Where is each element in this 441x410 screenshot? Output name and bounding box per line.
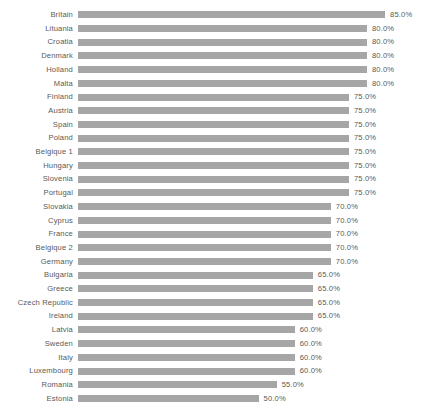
value-label: 55.0% [282,378,304,392]
bar-track [78,296,313,310]
bar-row: Spain75.0% [0,118,441,132]
bar [78,313,313,320]
bar-row: Czech Republic65.0% [0,296,441,310]
bar-chart: Britain85.0%Lituania80.0%Croatia80.0%Den… [0,0,441,410]
bar [78,121,349,128]
bar [78,381,277,388]
bar-row: Holland80.0% [0,63,441,77]
bar-row: Italy60.0% [0,351,441,365]
category-label: Austria [0,104,73,118]
category-label: Hungary [0,159,73,173]
bar [78,217,331,224]
bar-track [78,214,331,228]
value-label: 75.0% [354,131,376,145]
bar [78,272,313,279]
value-label: 60.0% [300,351,322,365]
bar-row: Croatia80.0% [0,35,441,49]
category-label: France [0,227,73,241]
bar-track [78,35,367,49]
bar-track [78,131,349,145]
category-label: Estonia [0,392,73,406]
bar [78,25,367,32]
bar [78,148,349,155]
category-label: Denmark [0,49,73,63]
bar-row: Belgique 270.0% [0,241,441,255]
bar-row: Malta80.0% [0,77,441,91]
category-label: Slovakia [0,200,73,214]
category-label: Romania [0,378,73,392]
bar-row: Slovenia75.0% [0,172,441,186]
value-label: 65.0% [318,309,340,323]
bar-row: Belgique 175.0% [0,145,441,159]
bar-track [78,145,349,159]
bar [78,244,331,251]
bar-row: Austria75.0% [0,104,441,118]
bar [78,189,349,196]
category-label: Sweden [0,337,73,351]
bar [78,326,295,333]
bar [78,80,367,87]
bar-row: Luxembourg60.0% [0,364,441,378]
category-label: Italy [0,351,73,365]
category-label: Malta [0,77,73,91]
value-label: 80.0% [372,35,394,49]
bar [78,66,367,73]
bar-row: Denmark80.0% [0,49,441,63]
bar [78,299,313,306]
value-label: 75.0% [354,145,376,159]
category-label: Belgique 1 [0,145,73,159]
category-label: Ireland [0,309,73,323]
bar [78,285,313,292]
bar-row: Latvia60.0% [0,323,441,337]
bar-track [78,378,277,392]
bar [78,340,295,347]
category-label: Bulgaria [0,268,73,282]
category-label: Holland [0,63,73,77]
bar-track [78,282,313,296]
bar-row: Ireland65.0% [0,309,441,323]
bar [78,11,385,18]
bar-row: Finland75.0% [0,90,441,104]
bar-track [78,392,259,406]
bar-track [78,22,367,36]
value-label: 70.0% [336,241,358,255]
value-label: 75.0% [354,90,376,104]
value-label: 75.0% [354,104,376,118]
bar [78,52,367,59]
bar-track [78,172,349,186]
category-label: Spain [0,118,73,132]
category-label: Finland [0,90,73,104]
bar-row: Bulgaria65.0% [0,268,441,282]
value-label: 70.0% [336,200,358,214]
value-label: 80.0% [372,22,394,36]
bar-track [78,268,313,282]
bar-track [78,323,295,337]
bar-track [78,49,367,63]
value-label: 80.0% [372,77,394,91]
bar-row: Germany70.0% [0,255,441,269]
bar [78,231,331,238]
value-label: 60.0% [300,323,322,337]
value-label: 70.0% [336,227,358,241]
value-label: 65.0% [318,282,340,296]
bar-track [78,8,385,22]
value-label: 65.0% [318,268,340,282]
category-label: Lituania [0,22,73,36]
bar-row: Cyprus70.0% [0,214,441,228]
value-label: 75.0% [354,186,376,200]
bar-track [78,255,331,269]
category-label: Greece [0,282,73,296]
bar [78,94,349,101]
value-label: 80.0% [372,63,394,77]
value-label: 50.0% [264,392,286,406]
value-label: 60.0% [300,364,322,378]
bar-track [78,337,295,351]
bar-row: Poland75.0% [0,131,441,145]
category-label: Czech Republic [0,296,73,310]
value-label: 65.0% [318,296,340,310]
bar-track [78,227,331,241]
bar-row: Slovakia70.0% [0,200,441,214]
bar-track [78,104,349,118]
bar-row: France70.0% [0,227,441,241]
category-label: Luxembourg [0,364,73,378]
